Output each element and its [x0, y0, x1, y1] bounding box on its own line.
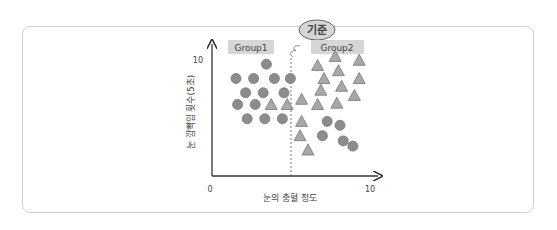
scatter-chart: 기준 Group1 Group2 10 0 10 눈의 충혈 정도 눈 깜빡임 …	[0, 0, 557, 230]
x-tick-10: 10	[365, 185, 375, 194]
triangle-point	[294, 130, 306, 141]
group2-label: Group2	[311, 40, 364, 54]
triangle-point	[332, 65, 344, 76]
y-axis-label: 눈 깜빡임 횟수(5초)	[185, 75, 196, 149]
circle-point	[317, 131, 327, 141]
circle-point	[322, 116, 332, 126]
svg-text:Group1: Group1	[234, 43, 267, 53]
triangle-point	[348, 89, 360, 100]
circle-point	[261, 59, 271, 69]
triangle-point	[265, 99, 277, 110]
triangle-point	[315, 84, 327, 95]
circle-point	[260, 114, 270, 124]
circle-point	[231, 74, 241, 84]
data-points	[231, 50, 365, 155]
triangle-point	[296, 93, 308, 104]
threshold-label: 기준	[307, 23, 327, 37]
circle-point	[242, 114, 252, 124]
triangle-point	[353, 54, 365, 65]
circle-point	[348, 141, 358, 151]
triangle-point	[318, 73, 330, 84]
group1-label: Group1	[228, 40, 274, 54]
x-axis-label: 눈의 충혈 정도	[263, 192, 317, 203]
triangle-point	[302, 144, 314, 155]
circle-point	[241, 88, 251, 98]
y-tick-10: 10	[193, 56, 203, 65]
svg-text:Group2: Group2	[320, 43, 353, 53]
triangle-point	[331, 97, 343, 108]
circle-point	[335, 120, 345, 130]
circle-point	[258, 88, 268, 98]
triangle-point	[312, 99, 324, 110]
circle-point	[249, 74, 259, 84]
triangle-point	[312, 60, 324, 71]
circle-point	[277, 114, 287, 124]
triangle-point	[336, 80, 348, 91]
circle-point	[279, 88, 289, 98]
circle-point	[338, 136, 348, 146]
circle-point	[250, 100, 260, 110]
x-tick-0: 0	[207, 185, 212, 194]
circle-point	[285, 74, 295, 84]
circle-point	[233, 100, 243, 110]
triangle-point	[296, 115, 308, 126]
circle-point	[269, 74, 279, 84]
triangle-point	[353, 73, 365, 84]
